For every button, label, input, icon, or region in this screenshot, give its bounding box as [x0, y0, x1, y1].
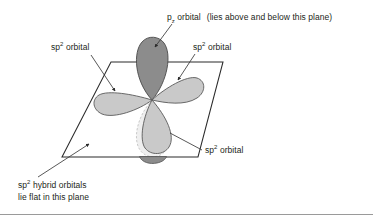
label-pz-subscript: z: [172, 18, 175, 24]
label-plane-line1: hybrid orbitals: [33, 180, 87, 190]
label-sp2-lower-symbol: sp: [205, 145, 214, 155]
label-sp2-lower-text: orbital: [220, 145, 244, 155]
label-plane-line2: lie flat in this plane: [18, 192, 89, 202]
label-sp2-left-symbol: sp: [51, 42, 60, 52]
label-sp2-right-symbol: sp: [193, 42, 202, 52]
label-sp2-left-superscript: 2: [60, 41, 63, 47]
label-plane-symbol: sp: [18, 180, 27, 190]
label-sp2-left-text: orbital: [66, 42, 90, 52]
label-pz-text: orbital: [177, 12, 201, 22]
label-sp2-right-superscript: 2: [202, 41, 205, 47]
label-sp2-right-text: orbital: [208, 42, 232, 52]
label-plane-superscript: 2: [27, 179, 30, 185]
label-sp2-lower-superscript: 2: [214, 144, 217, 150]
label-sp2-orbital-left: sp2 orbital: [51, 42, 89, 54]
label-pz-orbital: pz orbital(lies above and below this pla…: [167, 12, 332, 24]
bottom-divider: [0, 214, 373, 215]
label-plane-note: sp2 hybrid orbitalslie flat in this plan…: [18, 180, 89, 203]
label-sp2-orbital-lower: sp2 orbital: [205, 145, 243, 157]
label-pz-parenthetical: (lies above and below this plane): [207, 12, 332, 22]
label-sp2-orbital-right: sp2 orbital: [193, 42, 231, 54]
